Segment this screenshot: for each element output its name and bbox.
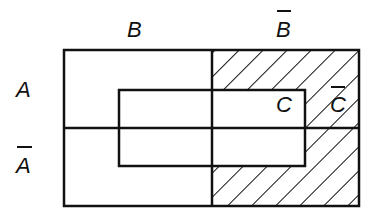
- label-c: C: [276, 92, 292, 117]
- venn-diagram: B B A A C C: [0, 0, 373, 222]
- label-a: A: [14, 77, 31, 102]
- label-c-bar: C: [330, 92, 346, 117]
- label-a-bar: A: [14, 153, 31, 178]
- label-b: B: [127, 17, 142, 42]
- label-b-bar: B: [276, 17, 291, 42]
